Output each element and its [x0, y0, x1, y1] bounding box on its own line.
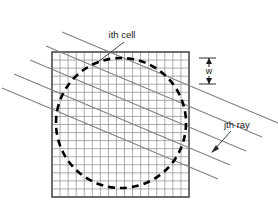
jth-ray-label: jth ray [223, 119, 250, 130]
annotation-cell-width: w [199, 58, 216, 84]
annotation-jth-ray: jth ray [211, 119, 250, 153]
w-arrowhead-up [206, 58, 212, 64]
ray-line [62, 32, 278, 123]
w-arrowhead-down [206, 78, 212, 84]
figure-container: ith cell jth ray w [0, 0, 278, 218]
cell-width-label: w [205, 66, 213, 76]
ray-line [14, 74, 230, 165]
diagram-canvas: ith cell jth ray w [0, 0, 278, 218]
grid-lines [52, 52, 189, 197]
ray-line [2, 88, 218, 179]
ith-cell-label: ith cell [109, 29, 136, 40]
ray-line [30, 60, 246, 151]
